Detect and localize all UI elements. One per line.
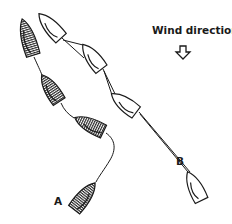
series-a-label: A xyxy=(54,195,63,207)
down-arrow-icon xyxy=(176,46,190,59)
wind-indicator: Wind direction xyxy=(152,24,232,59)
series-b-label: B xyxy=(176,155,184,167)
wind-direction-label: Wind direction xyxy=(152,24,232,36)
track-segment xyxy=(62,38,84,58)
boat-a3-icon xyxy=(72,111,107,138)
series-a-boats xyxy=(15,17,107,214)
series-b-boats xyxy=(34,9,209,204)
boat-b1-icon xyxy=(34,9,67,43)
boat-a2-icon xyxy=(36,71,66,106)
boat-b4-icon xyxy=(181,169,208,204)
boat-b3-icon xyxy=(107,88,141,118)
track-line-a xyxy=(34,57,114,182)
boat-a1-icon xyxy=(15,17,40,58)
boat-a4-icon xyxy=(68,178,100,214)
sailing-diagram: Wind direction xyxy=(0,0,232,224)
